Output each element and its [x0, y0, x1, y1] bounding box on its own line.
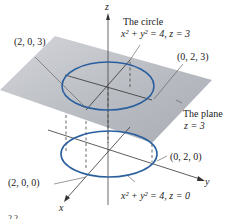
- cut-off-text: 2 2: [8, 213, 18, 219]
- point-200-label: (2, 0, 0): [8, 177, 40, 188]
- x-axis-label: x: [59, 202, 63, 213]
- z-axis-label: z: [105, 1, 109, 12]
- circle-equation-upper: x² + y² = 4, z = 3: [121, 28, 190, 39]
- plane-title-label: The plane: [183, 108, 223, 119]
- plane-equation-label: z = 3: [184, 120, 205, 131]
- y-axis-arrowhead: [197, 176, 205, 181]
- point-020-label: (0, 2, 0): [170, 151, 202, 162]
- circle-title-label: The circle: [123, 16, 163, 27]
- diagram-canvas: z The circle x² + y² = 4, z = 3 (2, 0, 3…: [0, 0, 230, 219]
- y-axis-label: y: [205, 176, 209, 187]
- lower-circle: [61, 131, 157, 177]
- point-203-label: (2, 0, 3): [14, 36, 46, 47]
- point-023-label: (0, 2, 3): [177, 51, 209, 62]
- circle-equation-lower: x² + y² = 4, z = 0: [121, 190, 190, 201]
- z-axis-arrowhead: [106, 13, 110, 20]
